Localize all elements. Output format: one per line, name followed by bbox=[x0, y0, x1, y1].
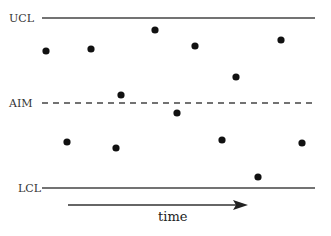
ucl-label: UCL bbox=[9, 12, 35, 25]
data-point bbox=[112, 144, 119, 151]
control-chart: UCL AIM LCL time bbox=[0, 0, 331, 236]
data-point bbox=[63, 138, 70, 145]
data-point bbox=[191, 42, 198, 49]
data-point bbox=[87, 45, 94, 52]
data-point bbox=[277, 36, 284, 43]
data-point bbox=[173, 109, 180, 116]
data-point bbox=[218, 136, 225, 143]
data-point bbox=[298, 139, 305, 146]
time-axis-label: time bbox=[158, 209, 188, 224]
data-point bbox=[232, 73, 239, 80]
data-point bbox=[151, 26, 158, 33]
data-point bbox=[117, 91, 124, 98]
data-point bbox=[42, 47, 49, 54]
data-point bbox=[254, 173, 261, 180]
aim-label: AIM bbox=[8, 97, 33, 110]
lcl-label: LCL bbox=[18, 182, 42, 195]
